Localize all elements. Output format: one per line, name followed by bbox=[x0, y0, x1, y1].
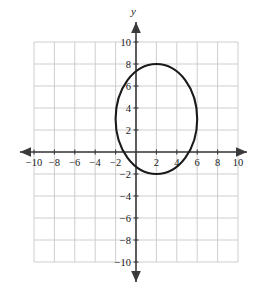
y-tick-label: 8 bbox=[126, 59, 131, 70]
chart-background bbox=[0, 0, 267, 290]
y-tick-label: 4 bbox=[126, 103, 132, 114]
x-tick-label: 10 bbox=[233, 157, 244, 168]
y-tick-label: 6 bbox=[126, 81, 131, 92]
y-tick-label: −10 bbox=[115, 257, 131, 268]
x-tick-label: 8 bbox=[215, 157, 220, 168]
x-tick-label: −2 bbox=[110, 157, 121, 168]
y-tick-label: −6 bbox=[120, 213, 131, 224]
y-axis-label: y bbox=[130, 5, 136, 17]
x-tick-label: 4 bbox=[174, 157, 180, 168]
x-tick-label: −8 bbox=[49, 157, 60, 168]
coordinate-plane-graph: −10−8−6−4−2246810 108642−2−4−6−8−10 y bbox=[0, 0, 267, 290]
y-tick-label: 10 bbox=[121, 37, 132, 48]
x-tick-label: −10 bbox=[26, 157, 42, 168]
y-tick-label: −4 bbox=[120, 191, 132, 202]
x-tick-label: 6 bbox=[195, 157, 200, 168]
plot-area: −10−8−6−4−2246810 108642−2−4−6−8−10 y bbox=[0, 0, 267, 290]
x-tick-label: −6 bbox=[69, 157, 80, 168]
y-tick-label: −2 bbox=[120, 169, 131, 180]
x-tick-label: 2 bbox=[154, 157, 159, 168]
y-tick-label: 2 bbox=[126, 125, 131, 136]
y-tick-label: −8 bbox=[120, 235, 131, 246]
x-tick-label: −4 bbox=[90, 157, 102, 168]
